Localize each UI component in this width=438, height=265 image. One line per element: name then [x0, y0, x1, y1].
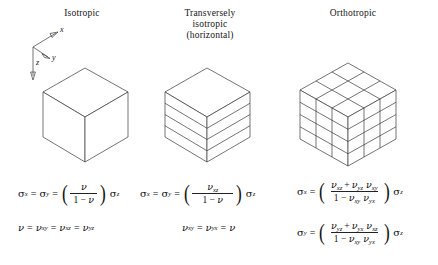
nu-yz-subscript: yz [358, 184, 364, 191]
sigma-z-symbol: σ [246, 188, 253, 199]
axis-x-arrowhead [50, 32, 58, 38]
sigma-z-symbol: σ [110, 188, 117, 199]
nu-xy-symbol: ν [36, 222, 42, 233]
nu-symbol: ν [18, 222, 24, 233]
equals-2: = [52, 188, 58, 199]
equals-1: = [153, 188, 159, 199]
equals-1: = [31, 188, 37, 199]
equation-orthotropic-sigma-x: σx = ( νxz+νyzνxy 1 − νxyνyx ) σz [297, 180, 403, 204]
nu-symbol-den: ν [217, 194, 223, 205]
column-title-line-1: Transversely [150, 8, 270, 19]
nu-xy-subscript-den: xy [354, 238, 360, 245]
denominator-prefix: 1 − [334, 234, 349, 244]
nu-yx-subscript: yx [358, 225, 364, 232]
equation-isotropic-sigma: σx = σy = ( ν 1 − ν ) σz [18, 182, 119, 206]
fraction-numerator: ν [78, 182, 90, 193]
equals-2: = [174, 188, 180, 199]
column-title-line-2: isotropic [150, 19, 270, 30]
sigma-x-symbol: σ [18, 188, 25, 199]
fraction: νxz 1 − ν [192, 182, 233, 206]
denominator-prefix: 1 − [334, 193, 349, 203]
nu-yz-subscript: yz [337, 225, 343, 232]
fraction-denominator: 1 − ν [70, 193, 97, 205]
fraction-numerator: νyz+νyxνxz [328, 221, 381, 232]
axis-label-x: x [60, 25, 64, 34]
equals-1: = [310, 186, 316, 197]
axis-y-arrowhead [42, 54, 50, 59]
equation-transversely-isotropic-poisson: νxy = νyx = ν [182, 222, 235, 233]
nu-symbol: ν [81, 181, 87, 192]
figure-canvas: Isotropic Transversely isotropic (horizo… [0, 0, 438, 265]
column-title-orthotropic: Orthotropic [288, 8, 418, 19]
axis-label-y: y [52, 53, 56, 62]
cube-isotropic [38, 62, 134, 168]
fraction-denominator: 1 − ν [192, 193, 233, 205]
nu-yx-subscript-den: yx [369, 238, 375, 245]
denominator-prefix: 1 − [73, 195, 88, 205]
fraction: νyz+νyxνxz 1 − νxyνyx [328, 221, 381, 245]
nu-xz-subscript: xz [213, 186, 219, 193]
equals-2: = [221, 222, 227, 233]
fraction-denominator: 1 − νxyνyx [331, 191, 378, 203]
equals-3: = [74, 222, 80, 233]
fraction-numerator: νxz [197, 182, 228, 193]
equation-transversely-isotropic-sigma: σx = σy = ( νxz 1 − ν ) σz [140, 182, 255, 206]
fraction-numerator: νxz+νyzνxy [328, 180, 381, 191]
nu-xy-subscript-den: xy [354, 197, 360, 204]
axis-x-line [33, 33, 56, 47]
equation-isotropic-poisson: ν = νxy = νxz = νyz [18, 222, 94, 233]
nu-xy-subscript: xy [372, 184, 378, 191]
cube-orthotropic [296, 58, 406, 173]
sigma-x-symbol: σ [140, 188, 147, 199]
nu-symbol-den: ν [88, 194, 94, 205]
equals-2: = [51, 222, 57, 233]
nu-xz-subscript: xz [337, 184, 343, 191]
equation-orthotropic-sigma-y: σy = ( νyz+νyxνxz 1 − νxyνyx ) σz [297, 221, 403, 245]
nu-symbol: ν [229, 222, 235, 233]
nu-xz-subscript: xz [372, 225, 378, 232]
nu-yx-subscript-den: yx [369, 197, 375, 204]
sigma-x-symbol: σ [297, 186, 304, 197]
column-title-line-3: (horizontal) [150, 30, 270, 41]
plus-sign: + [344, 180, 349, 190]
nu-yx-symbol: ν [206, 222, 212, 233]
plus-sign: + [344, 221, 349, 231]
column-title-transversely-isotropic: Transversely isotropic (horizontal) [150, 8, 270, 41]
equals-1: = [197, 222, 203, 233]
sigma-y-symbol: σ [297, 227, 304, 238]
equals-1: = [310, 227, 316, 238]
fraction: νxz+νyzνxy 1 − νxyνyx [328, 180, 381, 204]
nu-yz-symbol: ν [83, 222, 89, 233]
denominator-prefix: 1 − [202, 195, 217, 205]
fraction: ν 1 − ν [70, 182, 97, 206]
cube-transversely-isotropic [160, 62, 256, 168]
equals-1: = [27, 222, 33, 233]
fraction-denominator: 1 − νxyνyx [331, 232, 378, 244]
